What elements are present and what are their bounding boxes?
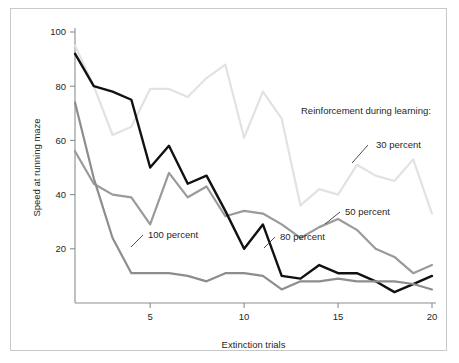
- y-tick-label-40: 40: [55, 189, 66, 200]
- annotation-leader-3: [264, 237, 275, 248]
- y-tick-label-60: 60: [55, 135, 66, 146]
- annotation-label-50-percent: 50 percent: [345, 206, 390, 217]
- series-line-30-percent: [75, 46, 432, 214]
- chart-figure: 204060801005101520 Reinforcement during …: [0, 0, 459, 363]
- y-tick-label-100: 100: [50, 26, 66, 37]
- x-tick-label-15: 15: [333, 311, 344, 322]
- x-tick-label-10: 10: [239, 311, 250, 322]
- axes-group: 204060801005101520: [50, 26, 437, 322]
- y-tick-label-20: 20: [55, 243, 66, 254]
- x-tick-label-20: 20: [427, 311, 438, 322]
- x-axis-title: Extinction trials: [222, 339, 286, 350]
- annotation-group: Reinforcement during learning:30 percent…: [131, 105, 431, 248]
- y-axis-title: Speed at running maze: [31, 118, 42, 216]
- annotation-label-30-percent: 30 percent: [376, 139, 421, 150]
- line-chart-plot: 204060801005101520 Reinforcement during …: [0, 0, 459, 363]
- annotation-leader-4: [131, 235, 143, 247]
- x-tick-label-5: 5: [148, 311, 153, 322]
- annotation-label-80-percent: 80 percent: [280, 231, 325, 242]
- annotation-label-reinforcement-during-learning-: Reinforcement during learning:: [301, 105, 431, 116]
- annotation-label-100-percent: 100 percent: [148, 229, 199, 240]
- series-line-80-percent: [75, 54, 432, 292]
- y-tick-label-80: 80: [55, 81, 66, 92]
- annotation-leader-1: [352, 145, 368, 163]
- series-group: [75, 46, 432, 293]
